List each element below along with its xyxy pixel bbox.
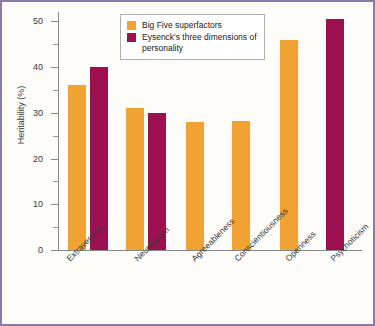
legend-item-eysenck: Eysenck's three dimensions of personalit… <box>127 32 259 54</box>
bar-extraversion-eysenck <box>90 67 108 250</box>
y-tick-label-0: 0 <box>13 246 43 255</box>
legend-swatch-crimson-icon <box>127 33 136 42</box>
x-axis-line <box>58 250 362 251</box>
bar-neuroticism-bigfive <box>126 108 144 250</box>
legend-label-eysenck: Eysenck's three dimensions of personalit… <box>142 32 259 54</box>
y-tick-label-50: 50 <box>13 17 43 26</box>
bar-psychoticism-eysenck <box>326 19 344 250</box>
y-tick-20 <box>51 159 58 160</box>
chart-legend: Big Five superfactors Eysenck's three di… <box>120 14 265 60</box>
legend-item-bigfive: Big Five superfactors <box>127 20 259 31</box>
y-tick-50 <box>51 21 58 22</box>
y-tick-40 <box>51 67 58 68</box>
bar-agreeableness-bigfive <box>186 122 204 250</box>
chart-figure: Heritability (%) 0 10 20 30 40 50 Extrav… <box>0 0 375 326</box>
y-tick-label-20: 20 <box>13 155 43 164</box>
y-tick-label-10: 10 <box>13 200 43 209</box>
bar-extraversion-bigfive <box>68 85 86 250</box>
y-tick-0 <box>51 250 58 251</box>
bar-conscientiousness-bigfive <box>232 121 250 250</box>
legend-label-bigfive: Big Five superfactors <box>142 20 222 31</box>
legend-swatch-orange-icon <box>127 21 136 30</box>
y-tick-30 <box>51 113 58 114</box>
y-tick-label-30: 30 <box>13 109 43 118</box>
y-tick-label-40: 40 <box>13 63 43 72</box>
y-tick-10 <box>51 204 58 205</box>
